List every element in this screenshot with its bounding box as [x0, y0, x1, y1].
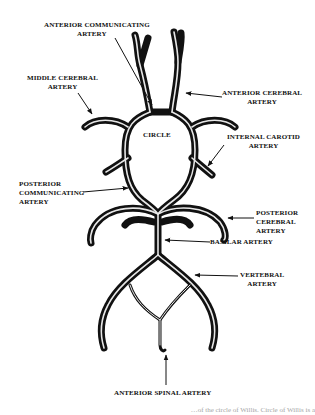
circle-vessel: [125, 112, 195, 214]
circle-of-willis-diagram: [0, 0, 315, 415]
label-anterior-communicating-artery: ANTERIOR COMMUNICATING ARTERY: [44, 21, 150, 39]
label-anterior-cerebral-artery: ANTERIOR CEREBRAL ARTERY: [222, 89, 302, 107]
arrow-anterior-cerebral: [186, 93, 222, 97]
label-posterior-communicating-artery: POSTERIOR COMMUNICATING ARTERY: [19, 180, 84, 207]
arrow-middle-cerebral: [78, 93, 92, 114]
label-posterior-cerebral-artery: POSTERIOR CEREBRAL ARTERY: [256, 209, 298, 236]
arrow-basilar: [165, 240, 210, 242]
label-basilar-artery: BASILAR ARTERY: [210, 238, 273, 247]
arrow-vertebral: [195, 275, 238, 276]
anterior-spinal-vessel: [130, 285, 190, 320]
label-middle-cerebral-artery: MIDDLE CEREBRAL ARTERY: [27, 74, 98, 92]
arrow-internal-carotid: [208, 145, 224, 166]
label-internal-carotid-artery: INTERNAL CAROTID ARTERY: [227, 133, 300, 151]
label-anterior-spinal-artery: ANTERIOR SPINAL ARTERY: [114, 389, 211, 398]
label-vertebral-artery: VERTEBRAL ARTERY: [240, 271, 284, 289]
circle-label: CIRCLE: [143, 131, 171, 140]
arrow-posterior-communicating: [83, 188, 128, 192]
figure-caption-fragment: …of the circle of Willis. Circle of Will…: [0, 406, 315, 415]
